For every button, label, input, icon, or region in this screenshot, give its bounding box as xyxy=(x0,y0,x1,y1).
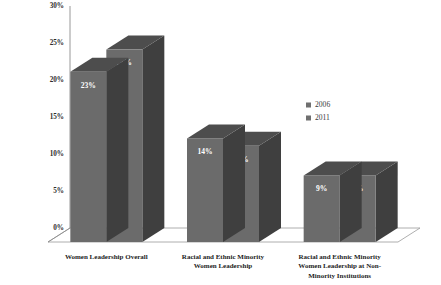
bar-front-face xyxy=(70,72,106,242)
y-axis-tick-label: 5% xyxy=(53,187,64,195)
bar-side-face xyxy=(223,124,245,242)
bar-value-label: 23% xyxy=(81,81,96,90)
category-label-line: Women Leadership xyxy=(194,262,253,270)
bar-2006-2: 14% xyxy=(187,124,245,242)
category-label-line: Women Leadership Overall xyxy=(65,253,148,261)
y-axis-tick-label: 15% xyxy=(50,113,64,121)
category-label-line: Minority Institutions xyxy=(308,272,371,280)
y-axis-tick-label: 25% xyxy=(50,39,64,47)
bar-2006-1: 23% xyxy=(70,58,128,242)
category-label-line: Women Leadership at Non- xyxy=(298,262,381,270)
legend-label: 2006 xyxy=(315,100,330,109)
category-label-2: Racial and Ethnic MinorityWomen Leadersh… xyxy=(182,253,265,271)
legend-swatch-icon xyxy=(306,103,311,108)
bar-side-face xyxy=(376,161,398,242)
y-axis-tick-label: 10% xyxy=(50,150,64,158)
legend-item-2011[interactable]: 2011 xyxy=(306,113,330,122)
y-axis-tick-label: 30% xyxy=(50,2,64,10)
y-axis-tick-label: 0% xyxy=(53,224,64,232)
bar-side-face xyxy=(340,161,362,242)
category-label-line: Racial and Ethnic Minority xyxy=(299,253,382,261)
bar-value-label: 9% xyxy=(316,184,327,193)
category-label-1: Women Leadership Overall xyxy=(65,253,148,261)
legend-swatch-icon xyxy=(306,116,311,121)
bar-side-face xyxy=(259,132,281,242)
bar-value-label: 14% xyxy=(197,147,212,156)
bar-chart: 0%5%10%15%20%25%30%26%23%13%14%9%9%Women… xyxy=(0,0,441,285)
category-label-3: Racial and Ethnic MinorityWomen Leadersh… xyxy=(298,253,381,280)
bar-2006-3: 9% xyxy=(304,161,362,242)
bar-side-face xyxy=(142,36,164,242)
legend-label: 2011 xyxy=(315,113,330,122)
y-axis-tick-label: 20% xyxy=(50,76,64,84)
legend-item-2006[interactable]: 2006 xyxy=(306,100,330,109)
category-label-line: Racial and Ethnic Minority xyxy=(182,253,265,261)
bar-side-face xyxy=(106,58,128,242)
chart-canvas: 0%5%10%15%20%25%30%26%23%13%14%9%9%Women… xyxy=(0,0,441,285)
